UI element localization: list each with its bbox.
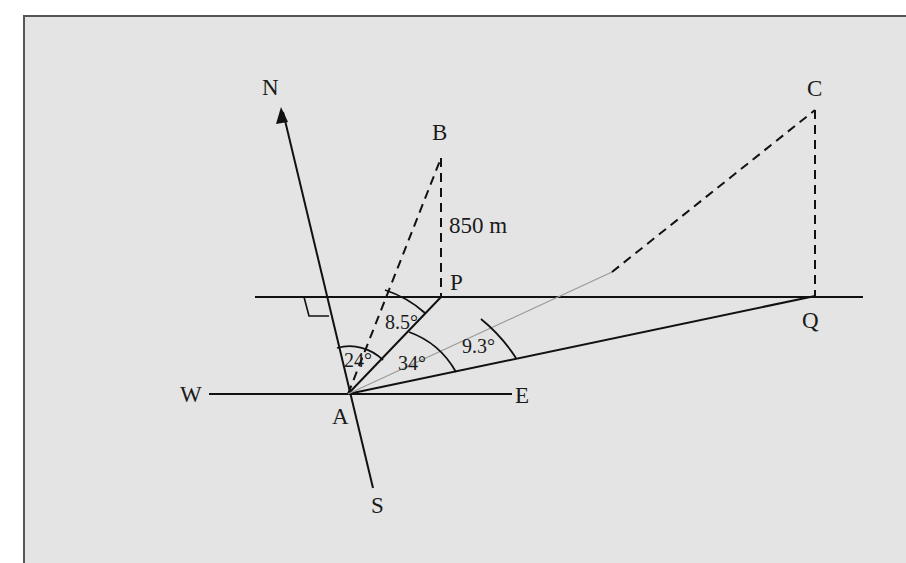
label-angle-34: 34° [398, 352, 426, 374]
label-angle-9-3: 9.3° [462, 335, 495, 357]
label-height-850m: 850 m [449, 213, 507, 238]
label-C: C [807, 76, 822, 101]
arc-8-5-degrees [385, 290, 425, 313]
label-Q: Q [802, 308, 819, 333]
label-angle-8-5: 8.5° [385, 311, 418, 333]
north-south-line [283, 112, 373, 488]
label-W: W [180, 382, 202, 407]
right-angle-marker [304, 297, 329, 316]
line-AQ [348, 296, 815, 394]
label-A: A [332, 404, 349, 429]
bearing-elevation-diagram: N B C P Q W E A S 850 m 24° 8.5° 34° 9.3… [0, 0, 906, 563]
label-E: E [515, 383, 529, 408]
line-AC-dashed [612, 110, 815, 272]
label-P: P [450, 270, 463, 295]
diagram-canvas: N B C P Q W E A S 850 m 24° 8.5° 34° 9.3… [0, 0, 906, 563]
label-N: N [262, 75, 279, 100]
label-B: B [432, 120, 447, 145]
label-S: S [371, 493, 384, 518]
north-arrow-icon [276, 107, 288, 124]
label-angle-24: 24° [344, 349, 372, 371]
